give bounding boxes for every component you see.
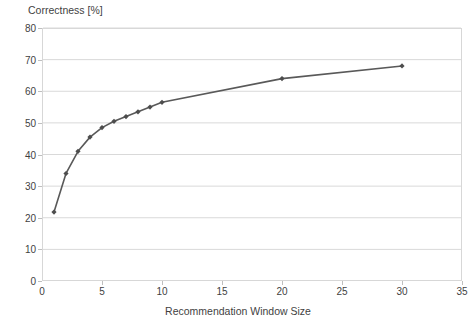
chart-canvas [0, 0, 476, 327]
y-tick-mark [38, 249, 42, 250]
y-tick-mark [38, 28, 42, 29]
data-point-marker [123, 114, 128, 119]
data-point-marker [399, 63, 404, 68]
data-point-marker [135, 109, 140, 114]
x-tick-mark [222, 281, 223, 285]
data-point-marker [147, 104, 152, 109]
x-tick-mark [162, 281, 163, 285]
y-tick-label: 20 [6, 212, 36, 223]
y-tick-mark [38, 281, 42, 282]
x-tick-mark [102, 281, 103, 285]
data-point-marker [279, 76, 284, 81]
y-tick-label: 50 [6, 117, 36, 128]
series-line [54, 66, 402, 212]
data-point-marker [51, 209, 56, 214]
y-tick-mark [38, 91, 42, 92]
y-tick-label: 30 [6, 181, 36, 192]
y-tick-label: 80 [6, 23, 36, 34]
x-tick-label: 10 [145, 286, 179, 297]
y-tick-label: 40 [6, 149, 36, 160]
y-tick-label: 60 [6, 86, 36, 97]
y-tick-label: 10 [6, 244, 36, 255]
gridlines [43, 28, 461, 249]
x-tick-label: 25 [325, 286, 359, 297]
x-tick-label: 15 [205, 286, 239, 297]
x-tick-mark [342, 281, 343, 285]
y-tick-mark [38, 155, 42, 156]
x-tick-label: 5 [85, 286, 119, 297]
x-tick-mark [282, 281, 283, 285]
x-tick-mark [402, 281, 403, 285]
x-tick-label: 20 [265, 286, 299, 297]
y-tick-mark [38, 186, 42, 187]
y-tick-label: 70 [6, 54, 36, 65]
x-tick-mark [462, 281, 463, 285]
y-tick-label: 0 [6, 276, 36, 287]
y-tick-mark [38, 60, 42, 61]
x-tick-label: 35 [445, 286, 476, 297]
x-axis-title: Recommendation Window Size [0, 305, 476, 317]
y-tick-mark [38, 218, 42, 219]
data-point-marker [159, 100, 164, 105]
x-tick-label: 30 [385, 286, 419, 297]
x-tick-label: 0 [25, 286, 59, 297]
y-tick-mark [38, 123, 42, 124]
chart-container: Correctness [%] 01020304050607080 051015… [0, 0, 476, 327]
data-series-layer [51, 63, 404, 214]
